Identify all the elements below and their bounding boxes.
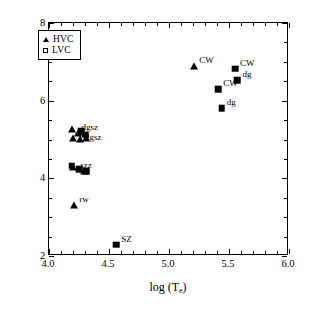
x-tick (241, 251, 242, 254)
legend-item-hvc: HVC (43, 34, 74, 45)
x-tick (205, 23, 206, 26)
x-tick (61, 23, 62, 26)
x-tick (133, 251, 134, 254)
point-label: dg (242, 70, 251, 79)
data-point-lvc (232, 66, 239, 73)
x-tick (169, 249, 170, 254)
x-tick (229, 249, 230, 254)
data-point-lvc (219, 105, 226, 112)
x-tick (157, 251, 158, 254)
x-tick-label: 5.5 (221, 258, 234, 269)
y-tick (49, 256, 54, 257)
x-tick (121, 23, 122, 26)
data-point-lvc (215, 86, 222, 93)
point-label: rw (79, 195, 89, 204)
y-tick (49, 140, 52, 141)
y-tick (284, 217, 287, 218)
x-tick (217, 23, 218, 26)
x-tick (133, 23, 134, 26)
x-tick (157, 23, 158, 26)
y-tick (49, 198, 52, 199)
y-tick-label: 4 (40, 172, 45, 183)
y-tick (282, 101, 287, 102)
y-tick (284, 140, 287, 141)
x-tick-label: 4.5 (101, 258, 114, 269)
y-tick (284, 159, 287, 160)
x-tick (97, 23, 98, 26)
x-tick (241, 23, 242, 26)
cluster-label: dgsz (81, 123, 98, 132)
x-tick (109, 23, 110, 28)
x-tick (205, 251, 206, 254)
x-tick (253, 251, 254, 254)
point-label: SZ (121, 235, 132, 244)
point-label: CW (223, 79, 238, 88)
x-axis-title: log (Te) (149, 280, 186, 295)
data-point-hvc (190, 63, 198, 70)
x-tick (145, 251, 146, 254)
y-tick-label: 8 (40, 17, 45, 28)
plot-frame: rwCWSZCWCWdgdgdgszdgszszz (48, 22, 288, 255)
y-tick (49, 62, 52, 63)
y-tick (49, 237, 52, 238)
y-tick-label: 6 (40, 94, 45, 105)
x-tick (109, 249, 110, 254)
x-tick (193, 23, 194, 26)
point-label: CW (199, 56, 214, 65)
y-tick (282, 256, 287, 257)
legend: HVCLVC (38, 30, 81, 60)
y-tick (49, 23, 54, 24)
x-tick (217, 251, 218, 254)
legend-rows: HVCLVC (43, 34, 74, 56)
x-tick (289, 23, 290, 28)
y-tick (284, 120, 287, 121)
x-tick (61, 251, 62, 254)
x-tick (73, 23, 74, 26)
x-tick (265, 251, 266, 254)
y-tick (284, 237, 287, 238)
legend-label: HVC (53, 35, 74, 45)
legend-marker-square (43, 48, 48, 53)
x-tick (289, 249, 290, 254)
legend-marker-triangle (43, 37, 49, 42)
x-tick (181, 251, 182, 254)
y-tick (284, 81, 287, 82)
y-tick (284, 198, 287, 199)
y-tick (284, 42, 287, 43)
data-point-lvc (69, 162, 76, 169)
y-tick (282, 23, 287, 24)
x-tick (193, 251, 194, 254)
x-tick (49, 249, 50, 254)
y-tick-label: 2 (40, 250, 45, 261)
x-tick (277, 23, 278, 26)
point-label: CW (240, 59, 255, 68)
x-tick (253, 23, 254, 26)
x-tick (181, 23, 182, 26)
x-tick (169, 23, 170, 28)
x-tick (85, 251, 86, 254)
x-tick-label: 5.0 (161, 258, 174, 269)
y-tick (284, 62, 287, 63)
x-tick (85, 23, 86, 26)
x-tick (145, 23, 146, 26)
x-tick-label: 6.0 (281, 258, 294, 269)
legend-label: LVC (52, 46, 71, 56)
cluster-label: szz (80, 161, 92, 170)
x-tick (73, 251, 74, 254)
y-tick (49, 217, 52, 218)
y-tick (49, 120, 52, 121)
y-tick (49, 101, 54, 102)
y-tick (49, 81, 52, 82)
x-tick (229, 23, 230, 28)
scatter-chart: log (ne) log (Te) 4.04.55.05.56.0 2468 r… (0, 0, 309, 309)
y-tick (49, 159, 52, 160)
y-tick (49, 178, 54, 179)
data-point-lvc (113, 241, 120, 248)
data-point-hvc (70, 202, 78, 209)
y-tick (282, 178, 287, 179)
x-tick (265, 23, 266, 26)
cluster-label: dgsz (85, 133, 102, 142)
point-label: dg (227, 98, 236, 107)
x-tick (121, 251, 122, 254)
x-tick (97, 251, 98, 254)
